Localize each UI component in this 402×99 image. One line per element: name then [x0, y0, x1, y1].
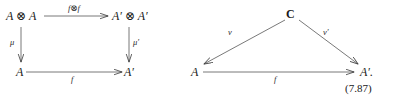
triangle-node-bottom-left: A	[191, 66, 198, 78]
triangle-label-left: v	[228, 28, 232, 37]
square-label-left: μ	[10, 38, 14, 47]
diagram-arrows	[0, 0, 402, 99]
square-label-top: f⊗f	[68, 4, 80, 13]
triangle-arrow-left	[204, 20, 285, 64]
square-label-bottom: f	[71, 75, 73, 84]
triangle-node-bottom-right: A′.	[360, 66, 373, 78]
figure-container: A ⊗ A A′ ⊗ A′ A A′ f⊗f μ μ′ f C A A′. v …	[0, 0, 402, 99]
triangle-label-right: v′	[323, 28, 329, 37]
square-node-bottom-left: A	[16, 66, 23, 78]
equation-number: (7.87)	[345, 82, 372, 94]
square-label-right: μ′	[133, 38, 139, 47]
triangle-label-bottom: f	[274, 75, 276, 84]
square-node-top-right: A′ ⊗ A′	[112, 10, 148, 22]
square-node-top-left: A ⊗ A	[6, 10, 36, 22]
triangle-node-apex: C	[286, 8, 295, 20]
square-node-bottom-right: A′	[124, 66, 134, 78]
